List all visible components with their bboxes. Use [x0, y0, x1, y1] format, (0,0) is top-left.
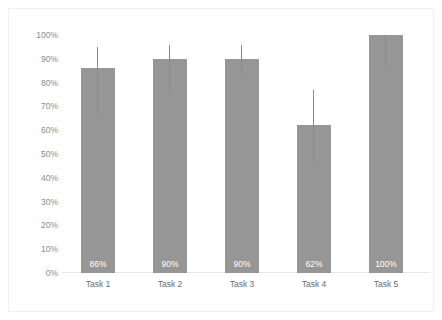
bar[interactable]: 100%: [369, 35, 403, 273]
y-axis-tick-label: 70%: [22, 101, 58, 111]
bar-group: 86%Task 1: [62, 35, 134, 273]
bar[interactable]: 86%: [81, 68, 115, 273]
y-axis-tick-label: 30%: [22, 197, 58, 207]
y-axis-tick-label: 50%: [22, 149, 58, 159]
bar-value-label: 86%: [81, 259, 115, 270]
x-axis-category-label: Task 3: [206, 279, 278, 290]
bar-value-label: 62%: [297, 259, 331, 270]
y-axis-tick-label: 100%: [22, 30, 58, 40]
bar-value-label: 90%: [225, 259, 259, 270]
plot-area: 86%Task 190%Task 290%Task 362%Task 4100%…: [62, 35, 430, 273]
bar-value-label: 90%: [153, 259, 187, 270]
y-axis: 0%10%20%30%40%50%60%70%80%90%100%: [22, 35, 58, 273]
error-bar: [97, 47, 98, 114]
error-bar: [241, 45, 242, 74]
bar-value-label: 100%: [369, 259, 403, 270]
x-axis-category-label: Task 5: [350, 279, 422, 290]
y-axis-tick-label: 80%: [22, 78, 58, 88]
bar-group: 90%Task 3: [206, 35, 278, 273]
x-axis-category-label: Task 1: [62, 279, 134, 290]
bar-chart: 0%10%20%30%40%50%60%70%80%90%100% 86%Tas…: [0, 0, 442, 320]
y-axis-tick-label: 90%: [22, 54, 58, 64]
y-axis-tick-label: 40%: [22, 173, 58, 183]
bar-group: 62%Task 4: [278, 35, 350, 273]
plot-wrapper: 0%10%20%30%40%50%60%70%80%90%100% 86%Tas…: [0, 0, 442, 320]
bar-group: 100%Task 5: [350, 35, 422, 273]
y-axis-tick-label: 20%: [22, 220, 58, 230]
bar-group: 90%Task 2: [134, 35, 206, 273]
bar[interactable]: 62%: [297, 125, 331, 273]
x-axis-category-label: Task 2: [134, 279, 206, 290]
error-bar: [313, 90, 314, 161]
error-bar: [169, 45, 170, 95]
bar[interactable]: 90%: [225, 59, 259, 273]
y-axis-tick-label: 0%: [22, 268, 58, 278]
x-axis-category-label: Task 4: [278, 279, 350, 290]
y-axis-tick-label: 60%: [22, 125, 58, 135]
y-axis-tick-label: 10%: [22, 244, 58, 254]
bar[interactable]: 90%: [153, 59, 187, 273]
error-bar: [385, 35, 386, 66]
